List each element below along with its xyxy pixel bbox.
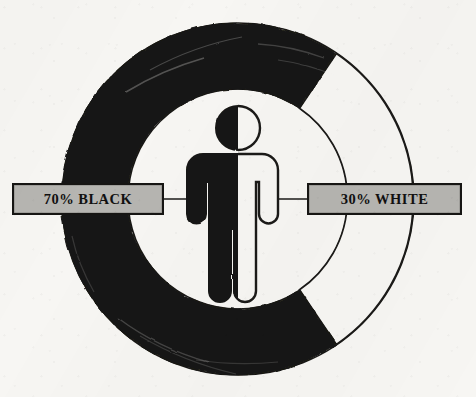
label-box-white[interactable]: 30% WHITE: [307, 183, 462, 215]
label-white-text: 30% WHITE: [341, 190, 429, 208]
label-box-black[interactable]: 70% BLACK: [12, 183, 164, 215]
infographic-canvas: 70% BLACK 30% WHITE: [0, 0, 476, 397]
label-black-text: 70% BLACK: [44, 190, 133, 208]
person-pictogram: [187, 106, 278, 302]
